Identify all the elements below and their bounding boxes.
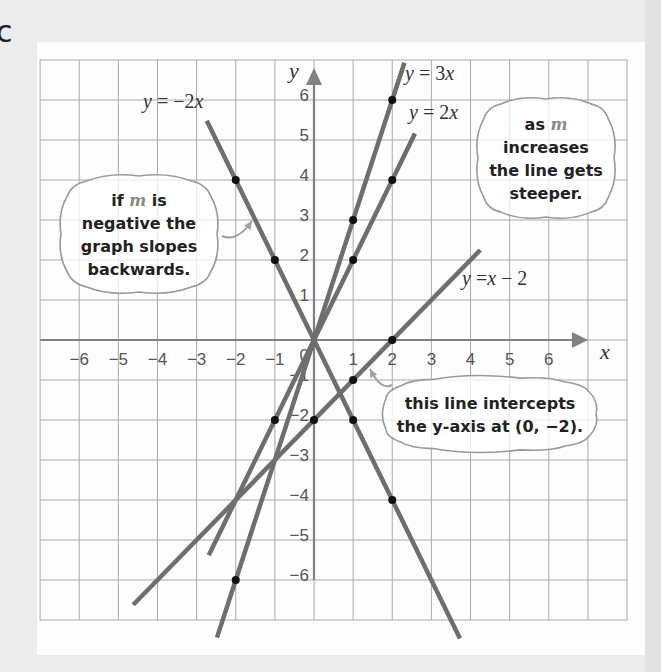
callout-text-line: increases	[503, 138, 589, 157]
x-tick-label: −2	[226, 350, 245, 369]
data-point	[349, 256, 357, 264]
callout-intercept-note: this line interceptsthe y-axis at (0, −2…	[370, 369, 597, 453]
equation-label: y = 3x	[403, 62, 454, 85]
x-tick-label: 3	[427, 350, 436, 369]
data-point	[232, 176, 240, 184]
x-tick-label: 5	[505, 350, 514, 369]
y-axis-arrow-icon	[306, 68, 322, 85]
x-tick-label: 2	[388, 350, 397, 369]
callout-arrow	[222, 221, 252, 238]
data-point	[271, 256, 279, 264]
x-tick-label: 6	[544, 350, 553, 369]
x-axis-label: x	[599, 339, 610, 364]
y-tick-label: −4	[290, 486, 309, 505]
callout-text-line: the line gets	[489, 161, 603, 180]
callout-negative-slope-note: if m isnegative thegraph slopesbackwards…	[60, 175, 252, 293]
y-tick-label: 2	[300, 246, 309, 265]
data-point	[388, 176, 396, 184]
x-tick-label: −3	[187, 350, 206, 369]
y-tick-label: 5	[300, 126, 309, 145]
data-point	[388, 496, 396, 504]
chart: xy −6−5−4−3−2−1123456−6−5−4−3−2−11234560…	[0, 0, 661, 672]
x-tick-label: 1	[348, 350, 357, 369]
callout-steeper-note: as mincreasesthe line getssteeper.	[477, 98, 615, 219]
y-tick-label: −3	[290, 446, 309, 465]
cloud-bubble	[382, 375, 596, 452]
equation-label: y = 2x	[407, 101, 458, 124]
x-tick-label: −4	[148, 350, 167, 369]
data-point	[349, 216, 357, 224]
y-axis-label: y	[287, 58, 299, 83]
equation-label: y = −2x	[141, 90, 203, 113]
callout-text-line: if m is	[111, 191, 167, 210]
data-point	[271, 416, 279, 424]
data-point	[349, 376, 357, 384]
y-tick-label: 3	[300, 206, 309, 225]
callout-text-line: the y-axis at (0, −2).	[397, 417, 583, 436]
y-tick-label: 1	[300, 286, 309, 305]
x-tick-label: −5	[109, 350, 128, 369]
equation-label: y =x − 2	[460, 267, 527, 290]
callouts: if m isnegative thegraph slopesbackwards…	[60, 98, 615, 453]
data-point	[388, 336, 396, 344]
callout-text-line: this line intercepts	[405, 394, 576, 413]
x-tick-label: −6	[70, 350, 89, 369]
x-tick-label: −1	[265, 350, 284, 369]
y-tick-label: −6	[290, 566, 309, 585]
x-axis-arrow-icon	[572, 332, 588, 348]
data-point	[310, 416, 318, 424]
data-point	[388, 96, 396, 104]
y-tick-label: −5	[290, 526, 309, 545]
callout-text-line: steeper.	[510, 184, 583, 203]
callout-text-line: backwards.	[88, 260, 191, 279]
y-tick-label: 6	[300, 86, 309, 105]
x-tick-label: 4	[466, 350, 475, 369]
callout-text-line: graph slopes	[81, 237, 197, 256]
line-2	[209, 134, 415, 556]
data-point	[232, 576, 240, 584]
callout-text-line: as m	[525, 115, 568, 134]
data-point	[349, 416, 357, 424]
y-tick-label: 4	[300, 166, 309, 185]
callout-text-line: negative the	[82, 214, 197, 233]
